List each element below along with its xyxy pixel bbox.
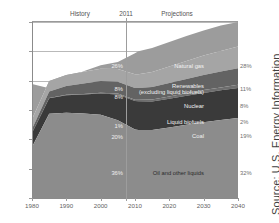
annotation-year-2011: 2011 — [111, 10, 141, 18]
chart-figure: History 2011 Projections — [0, 0, 279, 223]
xtick-label-2030: 2030 — [191, 202, 217, 209]
source-credit: Source: U.S. Energy Information Administ… — [248, 0, 279, 223]
source-line-1: Source: U.S. Energy Information — [270, 54, 279, 215]
chart-area: History 2011 Projections — [0, 0, 248, 223]
annotation-projections: Projections — [146, 10, 208, 18]
xtick-mark-2040 — [238, 198, 239, 201]
y-axis-line — [32, 22, 33, 198]
xtick-mark-2010 — [135, 198, 136, 201]
share-2011-coal: 20% — [101, 134, 123, 140]
xtick-mark-2030 — [204, 198, 205, 201]
xtick-mark-2020 — [169, 198, 170, 201]
series-label-liquid-biofuels: Liquid biofuels — [114, 119, 204, 126]
series-label-natural-gas: Natural gas — [124, 63, 204, 70]
xtick-mark-2000 — [101, 198, 102, 201]
xtick-label-1980: 1980 — [19, 202, 45, 209]
xtick-label-2020: 2020 — [156, 202, 182, 209]
series-label-nuclear: Nuclear — [124, 103, 204, 110]
series-label-coal: Coal — [124, 133, 204, 140]
xtick-label-2000: 2000 — [88, 202, 114, 209]
series-label-renewables-line2: (excluding liquid biofuels) — [94, 89, 204, 96]
xtick-label-2010: 2010 — [122, 202, 148, 209]
xtick-mark-1980 — [32, 198, 33, 201]
xtick-label-1990: 1990 — [53, 202, 79, 209]
annotation-history: History — [52, 10, 108, 18]
share-2011-natural-gas: 26% — [101, 63, 123, 69]
series-label-oil: Oil and other liquids — [104, 170, 204, 177]
xtick-mark-1990 — [66, 198, 67, 201]
